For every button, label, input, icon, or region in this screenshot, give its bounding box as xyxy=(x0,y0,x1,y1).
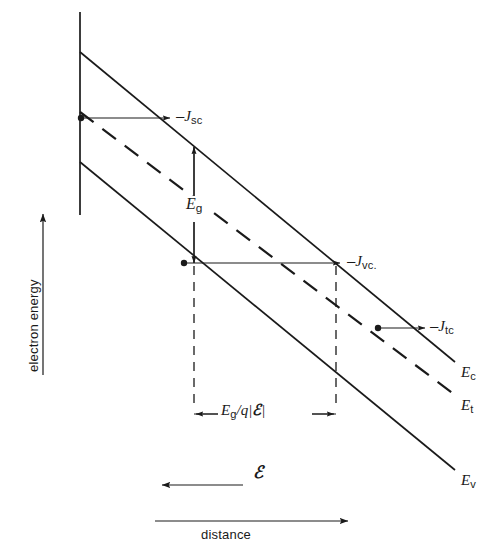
band-label-trap: Et xyxy=(461,397,473,415)
bandgap-label: Eg xyxy=(186,196,203,215)
current-label-jvc: –Jvc. xyxy=(347,253,377,271)
subscript-v: v xyxy=(470,478,476,490)
symbol-e-width: E xyxy=(221,402,230,418)
symbol-j-vc: J xyxy=(355,253,362,269)
subscript-sc: sc xyxy=(191,114,203,126)
subscript-tc: tc xyxy=(445,324,454,336)
band-diagram-canvas xyxy=(0,0,493,554)
subscript-vc: vc. xyxy=(362,259,377,271)
field-symbol-label: ℰ xyxy=(253,464,263,481)
y-axis-label: electron energy xyxy=(27,279,40,372)
band-diagram-figure: –Jsc –Jvc. –Jtc Eg Eg/q|ℰ| ℰ distance el… xyxy=(0,0,493,554)
script-e-field-icon: ℰ xyxy=(252,402,261,418)
subscript-t: t xyxy=(470,403,473,415)
abs-close: | xyxy=(261,402,265,418)
band-label-conduction: Ec xyxy=(461,364,476,382)
symbol-e-gap: E xyxy=(186,195,196,212)
symbol-j-tc: J xyxy=(438,318,445,334)
band-label-valence: Ev xyxy=(461,472,476,490)
over-q-abs: /q| xyxy=(237,402,253,418)
current-label-jsc: –Jsc xyxy=(176,108,203,126)
gap-width-label: Eg/q|ℰ| xyxy=(221,402,265,420)
symbol-e-c: E xyxy=(461,364,470,380)
subscript-g: g xyxy=(196,201,203,215)
subscript-c: c xyxy=(470,370,476,382)
x-axis-label: distance xyxy=(201,528,251,541)
band-edge-trap xyxy=(80,112,455,395)
symbol-e-t: E xyxy=(461,397,470,413)
symbol-j-sc: J xyxy=(184,108,191,124)
current-label-jtc: –Jtc xyxy=(430,318,454,336)
symbol-e-v: E xyxy=(461,472,470,488)
